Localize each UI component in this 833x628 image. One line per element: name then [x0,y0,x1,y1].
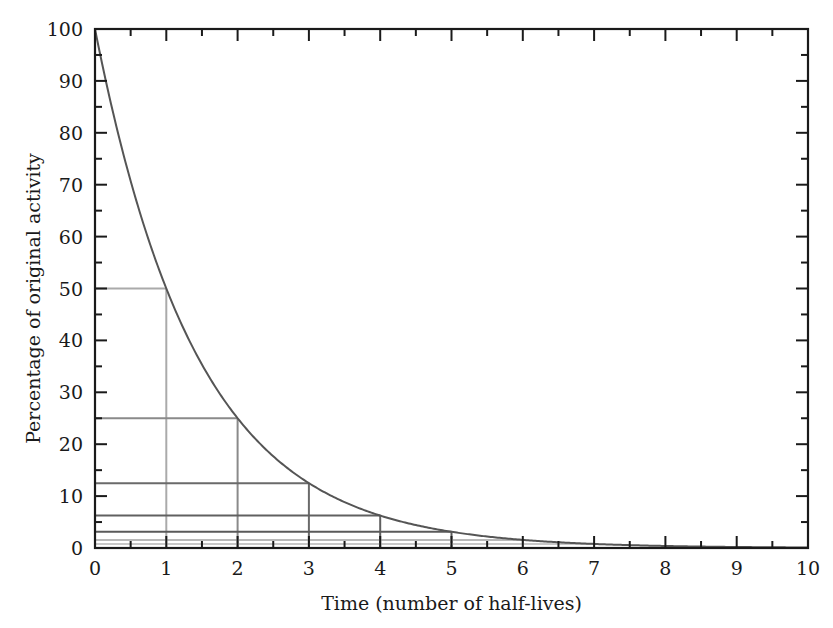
y-tick-label: 100 [47,18,83,40]
y-tick-label: 90 [59,70,83,92]
x-tick-label: 10 [796,557,820,579]
y-axis-title: Percentage of original activity [22,153,44,444]
x-tick-label: 8 [659,557,671,579]
x-tick-label: 6 [517,557,529,579]
plot-frame [95,29,808,548]
y-tick-label: 0 [71,537,83,559]
decay-curve [95,29,808,547]
x-tick-label: 9 [731,557,743,579]
x-tick-labels: 012345678910 [89,557,820,579]
y-tick-labels: 0102030405060708090100 [47,18,83,559]
y-tick-label: 50 [59,278,83,300]
x-tick-label: 5 [445,557,457,579]
y-tick-label: 40 [59,329,83,351]
y-tick-label: 70 [59,174,83,196]
x-axis-title: Time (number of half-lives) [321,592,582,614]
axis-ticks [95,29,808,548]
x-tick-label: 3 [303,557,315,579]
y-tick-label: 10 [59,485,83,507]
y-tick-label: 30 [59,381,83,403]
x-tick-label: 0 [89,557,101,579]
decay-chart: 012345678910 0102030405060708090100 Time… [0,0,833,628]
x-tick-label: 7 [588,557,600,579]
half-life-markers [95,289,594,549]
x-tick-label: 2 [232,557,244,579]
x-tick-label: 4 [374,557,386,579]
y-tick-label: 80 [59,122,83,144]
y-tick-label: 20 [59,433,83,455]
y-tick-label: 60 [59,226,83,248]
x-tick-label: 1 [160,557,172,579]
